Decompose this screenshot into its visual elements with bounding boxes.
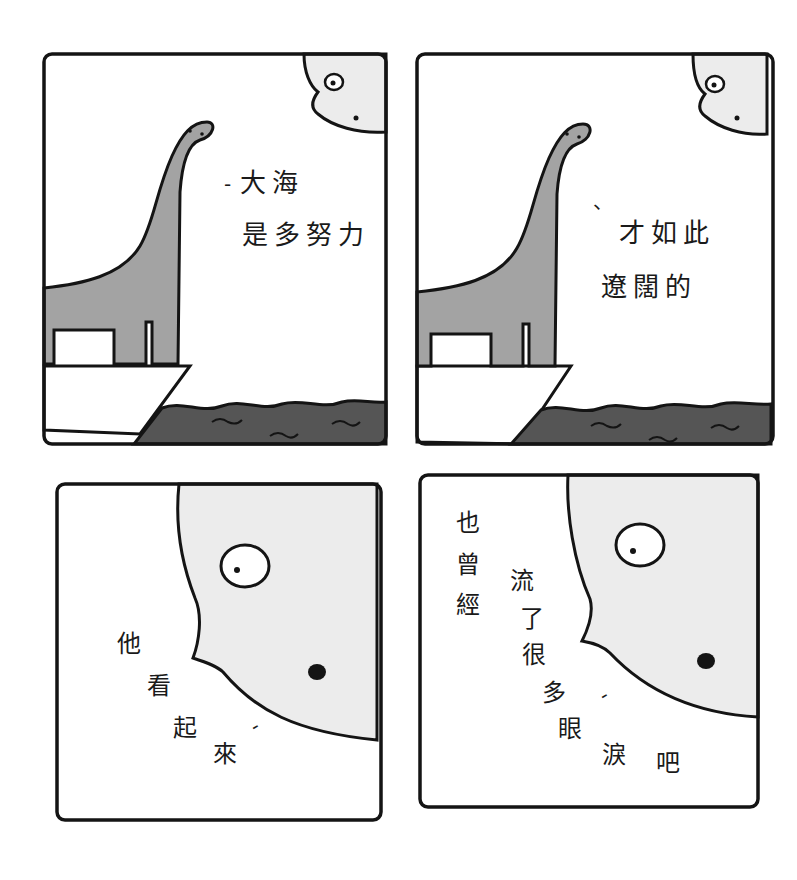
dinosaur — [44, 122, 213, 364]
moon-face — [178, 484, 377, 740]
dialogue-char: 看 — [147, 674, 171, 698]
dialogue-line-2: 遼闊的 — [601, 274, 697, 300]
moon-eye-icon — [616, 524, 664, 566]
dialogue-char: 了 — [520, 607, 544, 631]
panel-3-artwork — [55, 482, 385, 824]
dialogue-char: 淚 — [602, 743, 626, 767]
dinosaur-eye-icon — [565, 132, 569, 136]
dialogue-char: 流 — [510, 569, 534, 593]
dialogue-line-1: 才如此 — [619, 220, 715, 246]
moon-face — [304, 54, 386, 132]
dinosaur — [417, 124, 590, 366]
moon-cheek-icon — [354, 116, 359, 121]
moon-face — [693, 54, 767, 134]
dialogue-char: 經 — [456, 593, 480, 617]
dialogue-char: 眼 — [558, 717, 582, 741]
comic-panel-4: 也 曾 經 流 了 很 多 眼 淚 吧 - — [418, 473, 764, 811]
dialogue-char: 也 — [456, 511, 480, 535]
dialogue-char: 來 — [213, 742, 237, 766]
dialogue-char: 吧 — [656, 751, 680, 775]
dialogue-line-1: 大海 — [240, 170, 304, 196]
dinosaur-eye-icon — [188, 129, 192, 133]
dialogue-line-2: 是多努力 — [242, 222, 370, 248]
panel-1-artwork — [42, 52, 390, 448]
sea — [134, 401, 386, 444]
dialogue-char: 曾 — [456, 553, 480, 577]
speech-dash: 、 — [593, 186, 613, 215]
sea — [511, 403, 771, 444]
dialogue-char: 很 — [522, 643, 546, 667]
panel-2-artwork — [415, 52, 777, 448]
comic-panel-3: 他 看 起 來 - — [55, 482, 385, 824]
moon-cheek-icon — [735, 116, 740, 121]
dialogue-char: 多 — [542, 681, 566, 705]
dialogue-char: 起 — [173, 716, 197, 740]
comic-panel-1: - 大海 是多努力 — [42, 52, 390, 448]
dialogue-char: 他 — [117, 632, 145, 656]
speech-dash: - — [224, 172, 231, 196]
moon-eye-icon — [221, 545, 269, 587]
moon-cheek-icon — [697, 653, 715, 669]
comic-panel-2: 、 才如此 遼闊的 — [415, 52, 777, 448]
moon-face — [568, 475, 758, 717]
moon-cheek-icon — [308, 664, 326, 680]
